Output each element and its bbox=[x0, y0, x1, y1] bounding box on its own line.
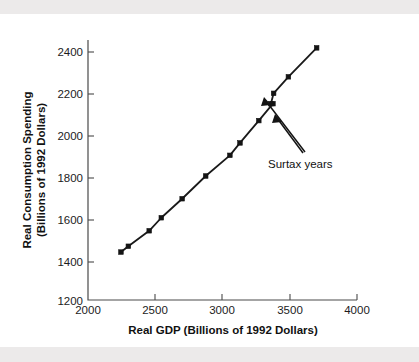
data-point-marker bbox=[228, 153, 233, 158]
data-point-marker bbox=[286, 75, 291, 80]
data-point-marker bbox=[119, 250, 124, 255]
y-axis-title-line2: (Billions of 1992 Dollars) bbox=[35, 103, 47, 237]
x-axis-tick-labels: 2000 2500 3000 3500 4000 bbox=[75, 304, 370, 316]
data-point-marker bbox=[126, 244, 131, 249]
data-series bbox=[119, 46, 319, 255]
y-tick-label: 1800 bbox=[57, 172, 83, 184]
x-tick-label: 4000 bbox=[344, 304, 370, 316]
y-axis-tick-labels: 2400 2200 2000 1800 1600 1400 1200 bbox=[57, 46, 83, 307]
y-tick-label: 2000 bbox=[57, 130, 83, 142]
data-point-marker bbox=[147, 228, 152, 233]
data-point-marker bbox=[159, 215, 164, 220]
data-point-marker bbox=[203, 174, 208, 179]
x-tick-label: 3500 bbox=[277, 304, 303, 316]
y-tick-label: 1600 bbox=[57, 214, 83, 226]
y-tick-label: 2400 bbox=[57, 46, 83, 58]
y-tick-label: 1400 bbox=[57, 256, 83, 268]
surtax-annotation-leaders bbox=[261, 97, 305, 153]
consumption-function-chart: 2400 2200 2000 1800 1600 1400 1200 2000 … bbox=[0, 0, 419, 362]
data-point-marker bbox=[314, 46, 319, 51]
y-axis-ticks bbox=[88, 52, 94, 262]
x-tick-label: 3000 bbox=[209, 304, 235, 316]
x-axis-title: Real GDP (Billions of 1992 Dollars) bbox=[128, 324, 318, 336]
axis-lines bbox=[88, 40, 357, 300]
data-point-marker bbox=[257, 118, 262, 123]
data-point-marker bbox=[271, 91, 276, 96]
figure-root: 2400 2200 2000 1800 1600 1400 1200 2000 … bbox=[0, 0, 419, 362]
data-point-marker bbox=[238, 141, 243, 146]
x-axis-ticks bbox=[155, 294, 357, 300]
y-axis-title-line1: Real Consumption Spending bbox=[21, 91, 33, 248]
y-tick-label: 2200 bbox=[57, 88, 83, 100]
data-point-marker bbox=[180, 196, 185, 201]
x-tick-label: 2500 bbox=[142, 304, 168, 316]
x-tick-label: 2000 bbox=[75, 304, 101, 316]
surtax-years-label: Surtax years bbox=[268, 158, 333, 170]
